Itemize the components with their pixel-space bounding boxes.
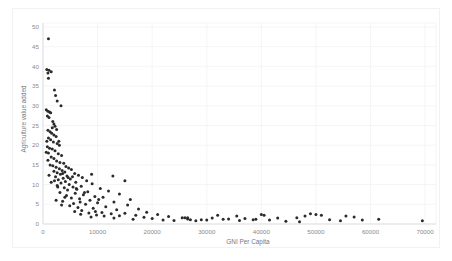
data-point [81,176,84,179]
data-point [62,162,65,165]
data-point [97,198,100,201]
data-point [48,174,51,177]
data-point [123,212,126,215]
data-point [186,216,189,219]
data-point [50,70,53,73]
data-point [235,215,238,218]
y-axis-title: Agriculture value added [20,85,28,153]
x-tick-labels: 010000200003000040000500006000070000 [41,228,434,235]
data-point [162,219,165,222]
data-point [167,215,170,218]
data-point [68,204,71,207]
data-point [252,218,255,221]
data-point [52,170,55,173]
x-tick-label: 50000 [307,228,325,235]
y-tick-label: 25 [32,122,39,129]
data-point [67,167,70,170]
data-point [151,217,154,220]
data-point [90,173,93,176]
data-point [51,120,54,123]
data-point [56,171,59,174]
data-point [57,152,60,155]
data-point [48,116,51,119]
data-point [83,191,86,194]
data-point [320,214,323,217]
data-point [74,192,77,195]
data-point [49,111,52,114]
x-axis-title: GNI Per Capita [226,238,270,246]
data-point [156,213,159,216]
x-tick-label: 0 [41,228,45,235]
x-tick-label: 30000 [198,228,216,235]
data-point [126,204,129,207]
data-point [118,193,121,196]
data-point [60,182,63,185]
data-point [314,213,317,216]
y-tick-label: 15 [32,161,39,168]
data-point [112,217,115,220]
data-point [263,214,266,217]
data-point [62,177,65,180]
y-tick-label: 20 [32,141,39,148]
data-point [45,140,48,143]
data-point [211,217,214,220]
data-point [79,213,82,216]
y-tick-label: 0 [36,220,40,227]
data-point [107,189,110,192]
y-tick-label: 45 [32,43,39,50]
data-point [55,159,58,162]
data-point [64,165,67,168]
data-point [268,219,271,222]
data-point [200,218,203,221]
data-point [55,199,58,202]
y-tick-label: 50 [32,23,39,30]
data-point [295,216,298,219]
data-point [75,187,78,190]
data-point [58,144,61,147]
data-point [142,216,145,219]
data-point [56,100,59,103]
data-point [339,219,342,222]
data-point [104,205,107,208]
data-point [94,210,97,213]
data-point [54,175,57,178]
x-tick-label: 60000 [362,228,380,235]
data-point [222,218,225,221]
data-point [61,172,64,175]
data-point [80,209,83,212]
data-point [93,195,96,198]
data-point [95,213,98,216]
data-point [53,89,56,92]
data-point [55,128,58,131]
data-point [181,216,184,219]
data-point [205,219,208,222]
data-point [55,135,58,138]
data-point [63,196,66,199]
data-point [344,215,347,218]
data-point [54,94,57,97]
data-point [87,211,90,214]
data-point [52,141,55,144]
data-point [52,157,55,160]
data-point [48,147,51,150]
data-point [112,200,115,203]
data-point [118,214,121,217]
y-tick-label: 5 [36,200,40,207]
data-point [78,197,81,200]
data-point [194,219,197,222]
data-point [51,126,54,129]
data-point [67,176,70,179]
data-point [53,179,56,182]
data-point [61,200,64,203]
data-point [73,210,76,213]
axis-lines [43,23,436,224]
data-point [70,168,73,171]
data-point [73,172,76,175]
y-tick-labels: 05101520253035404550 [32,23,39,227]
y-tick-label: 10 [32,181,39,188]
data-point [66,189,69,192]
data-point [58,167,61,170]
data-point [189,218,192,221]
data-point [85,179,88,182]
data-point [58,161,61,164]
